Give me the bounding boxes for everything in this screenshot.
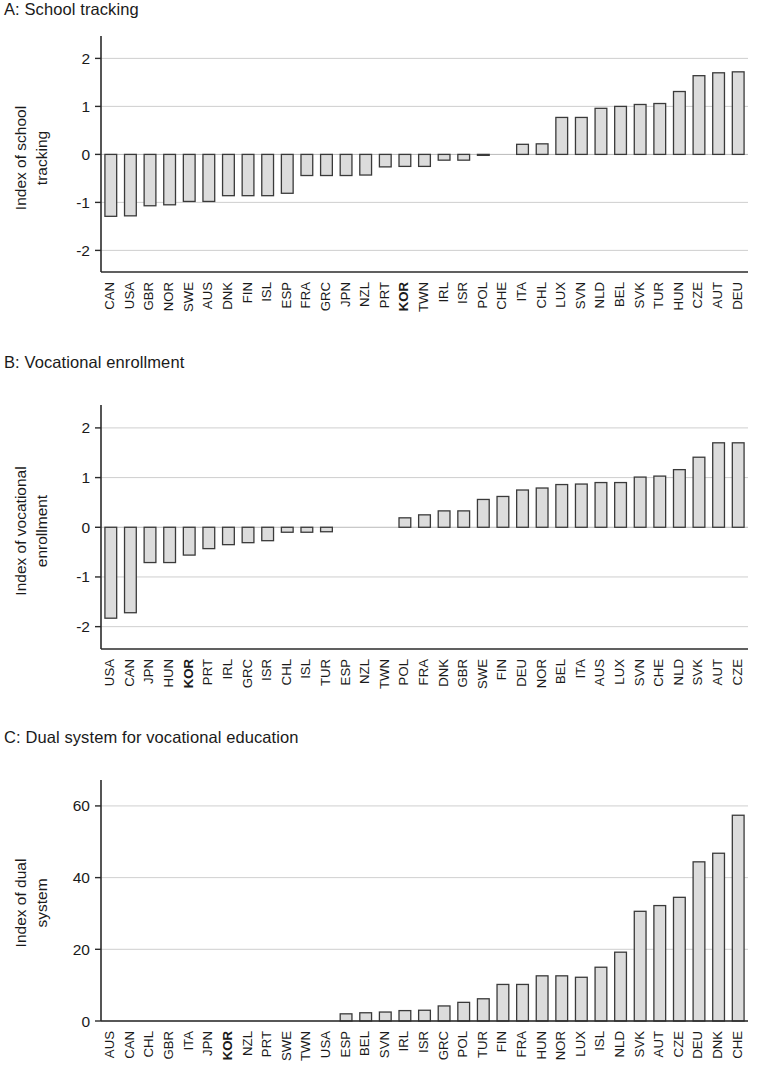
panel-b-plot: 210-1-2Index of vocationalenrollmentUSAC… (0, 353, 762, 725)
bar-ISL (262, 154, 274, 195)
bar-SWE (477, 499, 489, 527)
y-tick-label: 0 (81, 519, 90, 536)
x-tick-label-USA: USA (318, 1031, 333, 1058)
x-tick-label-GRC: GRC (436, 1031, 451, 1061)
x-tick-label-ISL: ISL (298, 659, 313, 679)
bar-SVN (379, 1012, 391, 1021)
x-tick-label-GRC: GRC (318, 282, 333, 312)
x-tick-label-KOR: KOR (220, 1031, 235, 1061)
x-tick-label-NZL: NZL (357, 282, 372, 307)
x-tick-label-AUT: AUT (710, 659, 725, 685)
bar-FRA (301, 154, 313, 175)
panel-a-plot: 210-1-2Index of schooltrackingCANUSAGBRN… (0, 0, 762, 345)
x-tick-label-JPN: JPN (200, 1031, 215, 1056)
x-tick-label-IRL: IRL (436, 282, 451, 303)
bar-LUX (615, 483, 627, 528)
bar-DEU (693, 862, 705, 1021)
bar-GRC (438, 1006, 450, 1021)
x-tick-label-NOR: NOR (161, 282, 176, 311)
panel-c-dual-system: C: Dual system for vocational education … (0, 728, 762, 1076)
x-tick-label-SWE: SWE (475, 659, 490, 689)
x-tick-label-CAN: CAN (122, 659, 137, 687)
x-tick-label-NLD: NLD (592, 282, 607, 308)
x-tick-label-TUR: TUR (475, 1031, 490, 1058)
y-tick-label: 2 (81, 419, 90, 436)
x-tick-label-HUN: HUN (534, 1031, 549, 1060)
x-tick-label-POL: POL (396, 659, 411, 685)
bar-NLD (615, 952, 627, 1021)
y-axis-label-line1: Index of vocational (12, 466, 29, 595)
bar-POL (458, 1002, 470, 1021)
bar-TUR (654, 104, 666, 155)
x-tick-label-KOR: KOR (181, 659, 196, 689)
x-tick-label-USA: USA (102, 659, 117, 686)
y-tick-label: 20 (73, 941, 91, 958)
bar-BEL (360, 1013, 372, 1021)
x-tick-label-AUT: AUT (710, 282, 725, 308)
bar-IRL (399, 1011, 411, 1021)
bar-CHE (732, 815, 744, 1021)
bar-CZE (693, 76, 705, 155)
bar-LUX (575, 977, 587, 1021)
figure-root: A: School tracking 210-1-2Index of schoo… (0, 0, 762, 1076)
panel-a-school-tracking: A: School tracking 210-1-2Index of schoo… (0, 0, 762, 345)
bar-AUT (713, 73, 725, 155)
x-tick-label-IRL: IRL (220, 659, 235, 680)
bar-CHE (654, 476, 666, 527)
bar-CAN (125, 527, 137, 612)
bar-FRA (419, 515, 431, 527)
x-tick-label-FRA: FRA (514, 1031, 529, 1058)
x-tick-label-DEU: DEU (514, 659, 529, 687)
x-tick-label-ESP: ESP (338, 1031, 353, 1058)
x-tick-label-NZL: NZL (240, 1031, 255, 1056)
bar-ISR (458, 154, 470, 160)
bar-CAN (105, 154, 117, 216)
x-tick-label-SVN: SVN (377, 1031, 392, 1058)
y-tick-label: 40 (73, 869, 91, 886)
x-tick-label-SWE: SWE (181, 282, 196, 312)
bar-ISR (262, 527, 274, 540)
x-tick-label-ISR: ISR (259, 659, 274, 681)
bar-SVK (634, 911, 646, 1021)
bar-IRL (438, 154, 450, 160)
x-tick-label-AUS: AUS (200, 282, 215, 309)
bar-DNK (223, 154, 235, 195)
bar-ISL (301, 527, 313, 532)
x-tick-label-FRA: FRA (298, 282, 313, 309)
x-tick-label-AUS: AUS (592, 659, 607, 686)
x-tick-label-PRT: PRT (200, 659, 215, 685)
x-tick-label-ISR: ISR (455, 282, 470, 304)
x-tick-label-NLD: NLD (671, 659, 686, 685)
x-tick-label-ESP: ESP (279, 282, 294, 309)
x-tick-label-CZE: CZE (730, 659, 745, 686)
bar-GRC (321, 154, 333, 175)
x-tick-label-LUX: LUX (553, 282, 568, 308)
y-tick-label: -1 (76, 194, 90, 211)
bar-CZE (732, 443, 744, 527)
y-axis-label-line1: Index of school (12, 106, 29, 210)
x-tick-label-HUN: HUN (161, 659, 176, 688)
x-tick-label-BEL: BEL (612, 282, 627, 307)
x-tick-label-DEU: DEU (730, 282, 745, 310)
x-tick-label-SVK: SVK (632, 1031, 647, 1058)
bar-FIN (242, 154, 254, 195)
bar-BEL (615, 106, 627, 154)
bar-CZE (674, 897, 686, 1021)
bar-ESP (281, 154, 293, 193)
x-tick-label-CHE: CHE (651, 659, 666, 687)
bar-GRC (242, 527, 254, 542)
x-tick-label-ISR: ISR (416, 1031, 431, 1053)
x-tick-label-CZE: CZE (671, 1031, 686, 1058)
x-tick-label-FIN: FIN (240, 282, 255, 303)
x-tick-label-CHL: CHL (534, 282, 549, 308)
x-tick-label-SVK: SVK (690, 659, 705, 686)
bar-ESP (340, 1014, 352, 1021)
y-axis-label-line2: tracking (33, 131, 50, 185)
y-tick-label: 1 (81, 469, 90, 486)
bar-AUS (595, 483, 607, 528)
y-tick-label: 1 (81, 98, 90, 115)
x-tick-label-PRT: PRT (377, 282, 392, 308)
x-tick-label-POL: POL (455, 1031, 470, 1057)
x-tick-label-NOR: NOR (534, 659, 549, 688)
bar-NLD (595, 108, 607, 154)
